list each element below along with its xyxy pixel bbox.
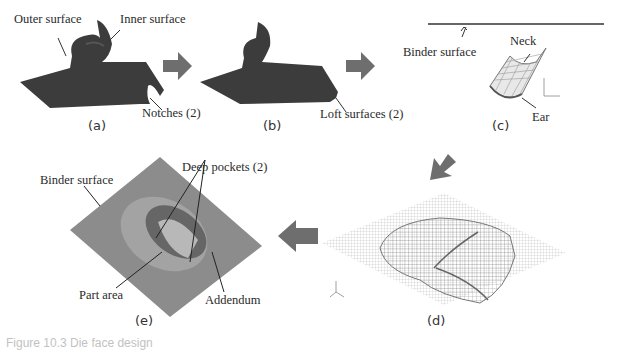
arrow-left-icon: [278, 220, 318, 252]
caption-c: (c): [492, 118, 509, 133]
arrow-right-icon: [163, 52, 192, 80]
caption-a: (a): [88, 118, 106, 133]
label-outer-surface: Outer surface: [14, 12, 82, 27]
axis-triad-d: [330, 281, 344, 297]
label-deep-pockets: Deep pockets (2): [182, 160, 267, 175]
figure-caption: Figure 10.3 Die face design: [6, 336, 153, 350]
label-addendum: Addendum: [205, 293, 261, 308]
ear-mesh: [490, 48, 546, 98]
caption-e: (e): [135, 313, 153, 328]
label-binder-surface-e: Binder surface: [40, 173, 113, 188]
part-b-shape: [200, 22, 338, 104]
arrow-down-left-icon: [430, 154, 456, 180]
mesh-d: [322, 193, 566, 305]
label-inner-surface: Inner surface: [120, 12, 186, 27]
part-a-shape: [20, 20, 164, 108]
label-binder-surface-c: Binder surface: [403, 45, 476, 60]
caption-d: (d): [427, 313, 445, 328]
arrow-right-icon: [346, 52, 375, 80]
label-part-area: Part area: [79, 288, 123, 303]
label-loft-surfaces: Loft surfaces (2): [320, 107, 403, 122]
label-neck: Neck: [510, 34, 536, 49]
label-notches: Notches (2): [142, 106, 201, 121]
axis-triad-c: [544, 78, 560, 96]
caption-b: (b): [263, 118, 281, 133]
label-ear: Ear: [532, 110, 549, 125]
